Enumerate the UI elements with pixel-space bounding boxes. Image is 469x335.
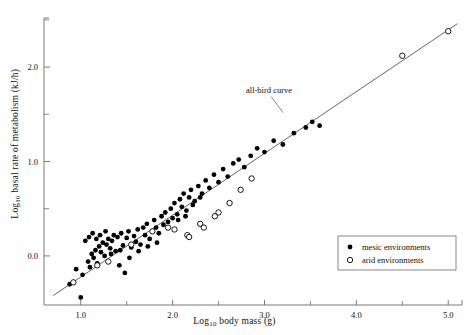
- data-point: [236, 157, 241, 162]
- annotation-leader-line: [271, 97, 283, 113]
- data-point: [108, 246, 113, 251]
- data-point: [291, 131, 296, 136]
- data-point: [165, 225, 170, 230]
- data-point: [203, 178, 208, 183]
- annotation-all-bird-curve: all-bird curve: [246, 85, 292, 95]
- legend-label: mesic environments: [362, 242, 430, 252]
- scatter-plot-figure: 1.02.03.04.05.00.01.02.0all-bird curveme…: [0, 0, 469, 335]
- data-point: [88, 265, 93, 270]
- data-point: [156, 231, 161, 236]
- data-point: [124, 236, 129, 241]
- data-point: [94, 237, 99, 242]
- data-point: [115, 235, 120, 240]
- data-point: [155, 240, 160, 245]
- data-point: [179, 204, 184, 209]
- data-point: [86, 259, 91, 264]
- data-point: [145, 244, 150, 249]
- data-point: [80, 272, 85, 277]
- data-point: [117, 263, 122, 268]
- data-point: [249, 176, 254, 181]
- data-point: [303, 125, 308, 130]
- data-point: [248, 153, 253, 158]
- data-point: [255, 146, 260, 151]
- data-point: [212, 172, 217, 177]
- y-axis-title: Log10 basal rate of metabolism (kJ/h): [10, 44, 22, 244]
- y-axis-title-sub: 10: [14, 195, 22, 202]
- data-point: [87, 235, 92, 240]
- data-point: [400, 53, 405, 58]
- data-point: [231, 161, 236, 166]
- data-point: [113, 249, 118, 254]
- data-point: [104, 242, 109, 247]
- data-point: [310, 119, 315, 124]
- legend-marker-filled-circle-icon: [348, 245, 353, 250]
- data-point: [83, 238, 88, 243]
- data-point: [71, 280, 76, 285]
- data-point: [119, 231, 124, 236]
- data-point: [186, 234, 191, 239]
- data-point: [176, 218, 181, 223]
- data-point: [172, 201, 177, 206]
- data-point: [110, 238, 115, 243]
- data-point: [262, 150, 267, 155]
- data-point: [216, 210, 221, 215]
- data-point: [90, 231, 95, 236]
- y-tick-label: 0.0: [27, 251, 38, 261]
- data-point: [225, 174, 230, 179]
- data-point: [127, 255, 132, 260]
- data-point: [280, 142, 285, 147]
- data-point: [190, 203, 195, 208]
- data-point: [183, 214, 188, 219]
- data-point: [95, 263, 100, 268]
- data-point: [132, 234, 137, 239]
- x-axis-title-pre: Log: [193, 316, 209, 326]
- data-point: [227, 200, 232, 205]
- data-point: [98, 233, 103, 238]
- data-point: [196, 184, 201, 189]
- legend-label: arid environments: [362, 255, 424, 265]
- data-point: [74, 267, 79, 272]
- data-point: [106, 259, 111, 264]
- y-axis-title-post: basal rate of metabolism (kJ/h): [10, 69, 20, 195]
- data-point: [216, 180, 221, 185]
- data-point: [198, 195, 203, 200]
- data-point: [184, 208, 189, 213]
- data-point: [221, 167, 226, 172]
- data-point: [78, 295, 83, 300]
- data-point: [97, 244, 102, 249]
- data-point: [170, 216, 175, 221]
- data-point: [152, 218, 157, 223]
- data-point: [143, 233, 148, 238]
- data-point: [121, 243, 126, 248]
- data-point: [446, 29, 451, 34]
- data-point: [159, 214, 164, 219]
- data-point: [181, 191, 186, 196]
- y-axis-title-pre: Log: [10, 203, 20, 219]
- data-point: [99, 250, 104, 255]
- data-point: [178, 197, 183, 202]
- data-point: [242, 165, 247, 170]
- data-point: [166, 220, 171, 225]
- x-axis-title-post: body mass (g): [217, 316, 276, 326]
- data-point: [147, 237, 152, 242]
- legend-marker-open-circle-icon: [347, 257, 352, 262]
- data-point: [187, 195, 192, 200]
- data-point: [201, 225, 206, 230]
- data-point: [168, 206, 173, 211]
- data-point: [109, 252, 114, 257]
- data-point: [271, 138, 276, 143]
- y-tick-label: 1.0: [27, 157, 38, 167]
- data-point: [118, 248, 123, 253]
- data-point: [129, 242, 134, 247]
- data-point: [102, 254, 107, 259]
- plot-canvas: 1.02.03.04.05.00.01.02.0all-bird curveme…: [0, 0, 469, 335]
- x-axis-title: Log10 body mass (g): [0, 316, 469, 328]
- x-axis-title-sub: 10: [209, 320, 216, 328]
- data-point: [238, 187, 243, 192]
- data-point: [141, 225, 146, 230]
- data-point: [93, 248, 98, 253]
- data-point: [317, 123, 322, 128]
- data-point: [138, 242, 143, 247]
- series-mesic: [67, 119, 322, 299]
- data-point: [144, 221, 149, 226]
